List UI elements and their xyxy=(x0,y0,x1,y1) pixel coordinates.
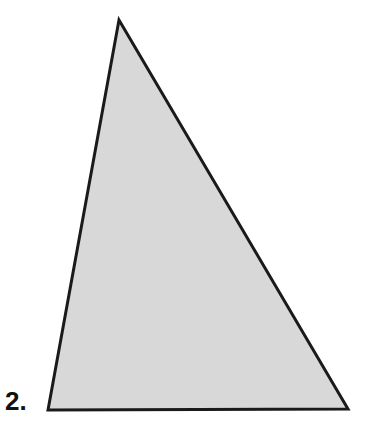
problem-number-label: 2. xyxy=(5,388,27,414)
figure-page: 2. xyxy=(0,0,385,439)
triangle-figure-canvas xyxy=(0,0,385,439)
